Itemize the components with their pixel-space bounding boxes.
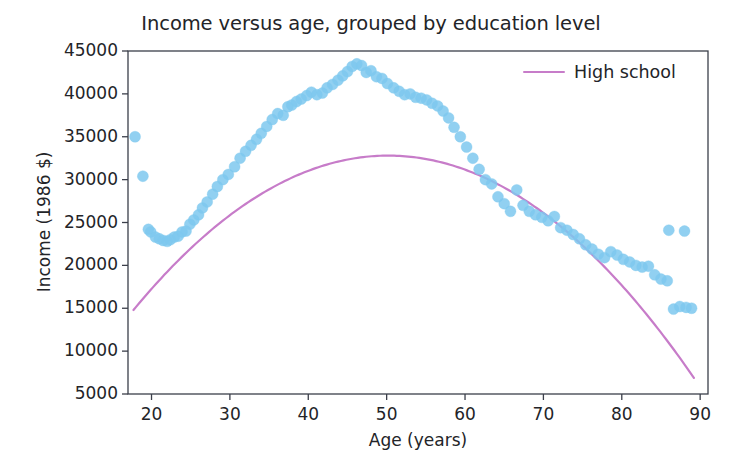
y-tick-label: 10000 — [2, 340, 118, 360]
x-tick-label: 60 — [435, 404, 495, 424]
y-tick-label: 45000 — [2, 40, 118, 60]
y-tick-label: 35000 — [2, 126, 118, 146]
x-tick-label: 70 — [513, 404, 573, 424]
y-tick-label: 30000 — [2, 169, 118, 189]
legend-line-icon — [523, 71, 565, 73]
y-tick-label: 5000 — [2, 383, 118, 403]
tick-marks — [122, 51, 700, 400]
x-axis-label: Age (years) — [128, 430, 708, 450]
x-tick-label: 40 — [278, 404, 338, 424]
legend-label: High school — [574, 62, 676, 82]
chart-legend: High school — [523, 62, 676, 82]
x-tick-label: 50 — [357, 404, 417, 424]
y-tick-label: 20000 — [2, 254, 118, 274]
y-tick-label: 40000 — [2, 83, 118, 103]
chart-figure: Income versus age, grouped by education … — [0, 0, 742, 467]
y-tick-label: 25000 — [2, 212, 118, 232]
y-tick-label: 15000 — [2, 297, 118, 317]
x-tick-label: 20 — [122, 404, 182, 424]
x-tick-label: 90 — [670, 404, 730, 424]
x-tick-label: 80 — [592, 404, 652, 424]
x-tick-label: 30 — [200, 404, 260, 424]
